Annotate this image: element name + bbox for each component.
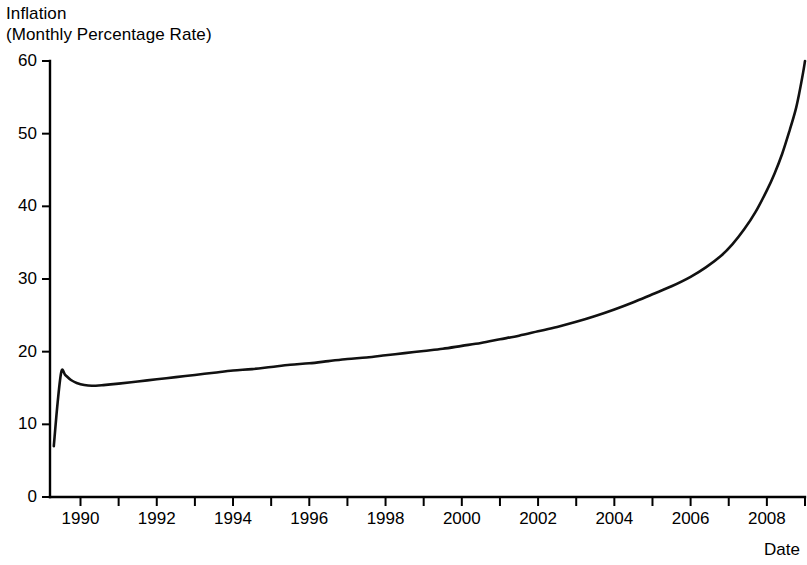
y-tick-label: 40: [0, 197, 37, 214]
x-tick-label: 1992: [117, 510, 197, 527]
x-tick-label: 2004: [574, 510, 654, 527]
x-tick-label: 2006: [651, 510, 731, 527]
y-tick-label: 50: [0, 125, 37, 142]
y-tick-label: 10: [0, 415, 37, 432]
axes-group: [50, 61, 805, 497]
y-tick-label: 30: [0, 270, 37, 287]
data-series-group: [54, 61, 805, 446]
x-tick-label: 1990: [41, 510, 121, 527]
x-axis-title: Date: [764, 540, 800, 560]
x-tick-label: 1998: [346, 510, 426, 527]
inflation-line-series: [54, 61, 805, 446]
x-tick-label: 1996: [269, 510, 349, 527]
y-tick-label: 20: [0, 343, 37, 360]
y-tick-label: 0: [0, 488, 37, 505]
x-tick-marks: [81, 497, 805, 506]
y-tick-label: 60: [0, 52, 37, 69]
x-tick-label: 2008: [727, 510, 807, 527]
x-tick-label: 2000: [422, 510, 502, 527]
x-tick-label: 2002: [498, 510, 578, 527]
x-tick-label: 1994: [193, 510, 273, 527]
